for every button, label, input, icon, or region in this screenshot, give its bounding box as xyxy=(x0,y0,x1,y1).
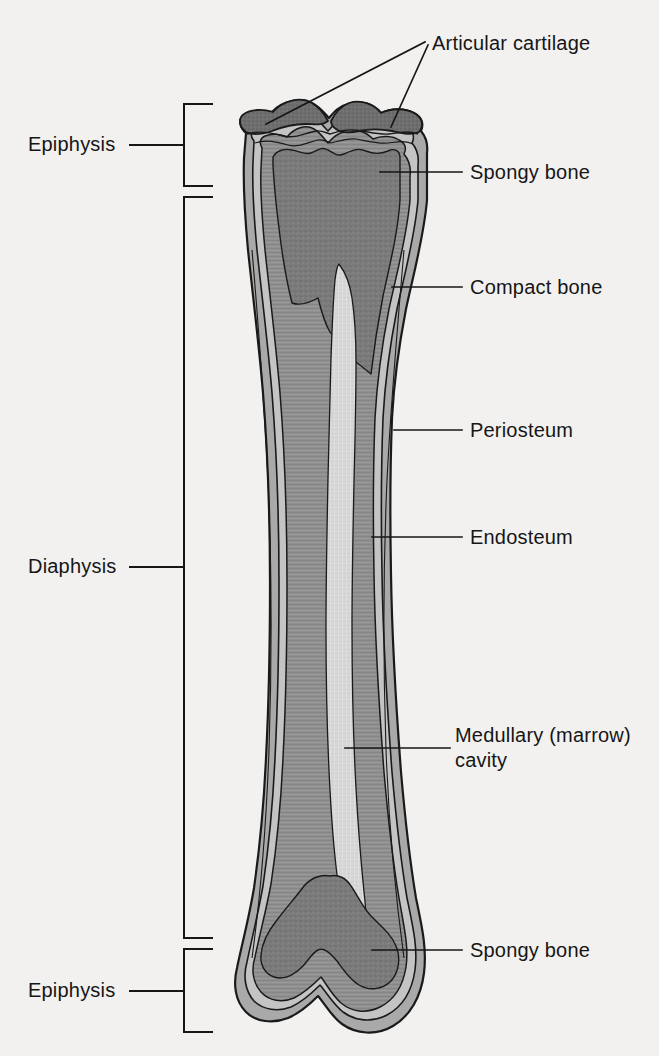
label-epiphysis-top: Epiphysis xyxy=(28,132,115,157)
articular-cartilage-right xyxy=(331,102,422,134)
bracket-epiphysis-top xyxy=(130,104,212,186)
bone-illustration xyxy=(235,100,427,1033)
label-medullary-cavity: Medullary (marrow) cavity xyxy=(455,723,631,773)
label-endosteum: Endosteum xyxy=(470,525,573,550)
bracket-epiphysis-bottom xyxy=(130,949,212,1032)
label-compact-bone: Compact bone xyxy=(470,275,602,300)
label-periosteum: Periosteum xyxy=(470,418,573,443)
label-diaphysis: Diaphysis xyxy=(28,554,117,579)
label-spongy-bone-top: Spongy bone xyxy=(470,160,590,185)
brackets xyxy=(130,104,212,1032)
label-epiphysis-bottom: Epiphysis xyxy=(28,978,115,1003)
bracket-diaphysis xyxy=(130,197,212,938)
label-spongy-bone-bottom: Spongy bone xyxy=(470,938,590,963)
label-articular-cartilage: Articular cartilage xyxy=(432,31,590,56)
bone-diagram-page: Articular cartilage Spongy bone Compact … xyxy=(0,0,659,1056)
